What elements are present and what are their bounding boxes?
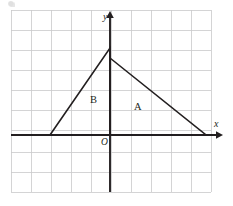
canvas-background (0, 0, 233, 206)
coordinate-diagram (0, 0, 233, 206)
triangle-b-label: B (90, 95, 97, 106)
triangle-a-label: A (134, 102, 142, 113)
figure-canvas: y x O B A (0, 0, 233, 206)
y-axis-label: y (103, 12, 107, 22)
origin-label: O (101, 138, 108, 148)
x-axis-label: x (214, 119, 218, 129)
scan-artifact-speck (8, 1, 15, 7)
